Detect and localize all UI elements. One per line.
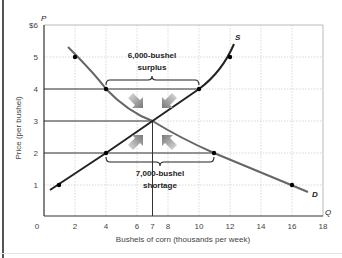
svg-text:12: 12 <box>226 222 235 231</box>
supply-demand-chart: 6,000-bushel surplus 7,000-bushel shorta… <box>0 0 342 258</box>
svg-text:2: 2 <box>34 149 39 158</box>
svg-text:14: 14 <box>257 222 266 231</box>
y-tick-labels: $6 5 4 3 2 1 <box>29 21 38 190</box>
surplus-brace <box>106 76 199 85</box>
arrow-up-left-icon <box>162 135 177 150</box>
supply-label: S <box>235 33 241 42</box>
svg-text:6: 6 <box>135 222 140 231</box>
arrow-down-right-icon <box>128 93 143 108</box>
shortage-label-line1: 7,000-bushel <box>136 169 184 178</box>
demand-label: D <box>312 190 318 199</box>
y-axis-title: Price (per bushel) <box>14 96 23 159</box>
svg-text:4: 4 <box>34 85 39 94</box>
demand-curve <box>68 47 308 192</box>
surplus-label-line2: surplus <box>138 63 167 72</box>
shortage-brace <box>106 157 214 166</box>
svg-text:10: 10 <box>195 222 204 231</box>
svg-text:8: 8 <box>166 222 171 231</box>
svg-text:1: 1 <box>34 181 39 190</box>
svg-text:2: 2 <box>73 222 78 231</box>
x-tick-labels: 0 2 4 6 7 8 10 12 14 16 18 <box>35 222 328 231</box>
svg-text:4: 4 <box>104 222 109 231</box>
svg-text:16: 16 <box>288 222 297 231</box>
svg-text:7: 7 <box>150 222 155 231</box>
svg-text:$6: $6 <box>29 21 38 30</box>
svg-text:18: 18 <box>319 222 328 231</box>
svg-text:0: 0 <box>35 222 40 231</box>
shortage-label-line2: shortage <box>143 181 177 190</box>
svg-text:5: 5 <box>34 53 39 62</box>
svg-text:3: 3 <box>34 117 39 126</box>
x-axis-title: Bushels of corn (thousands per week) <box>116 235 251 244</box>
p-axis-symbol: P <box>41 14 47 23</box>
q-axis-symbol: Q <box>325 208 331 217</box>
surplus-label-line1: 6,000-bushel <box>128 51 176 60</box>
